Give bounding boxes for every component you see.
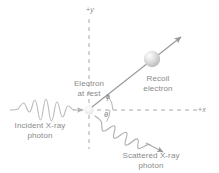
recoil-electron-label-line1: Recoil <box>128 74 188 84</box>
theta-angle-label: θ <box>101 110 111 120</box>
incident-xray-photon-label: Incident X-ray photon <box>2 121 78 140</box>
incident-xray-photon-label-line1: Incident X-ray <box>2 121 78 131</box>
recoil-electron-sphere <box>144 51 160 67</box>
scattered-xray-photon-label-line2: photon <box>110 161 192 171</box>
x-axis-name: x <box>202 106 206 113</box>
phi-angle-label: ϕ <box>103 92 113 102</box>
y-axis-label: +y <box>78 5 102 15</box>
x-axis-label: +x <box>198 105 218 115</box>
recoil-electron-label: Recoil electron <box>128 74 188 93</box>
recoil-electron-label-line2: electron <box>128 84 188 94</box>
incident-xray-wave <box>10 99 74 121</box>
electron-at-rest-label-line1: Electron <box>58 79 120 89</box>
incident-xray-photon-label-line2: photon <box>2 131 78 141</box>
scattered-xray-photon-label: Scattered X-ray photon <box>110 151 192 170</box>
y-axis-name: y <box>90 6 94 13</box>
scattered-xray-photon-label-line1: Scattered X-ray <box>110 151 192 161</box>
compton-scattering-diagram: +y +x Electron at rest Recoil electron I… <box>0 0 219 173</box>
scattered-xray-wave <box>95 116 150 149</box>
